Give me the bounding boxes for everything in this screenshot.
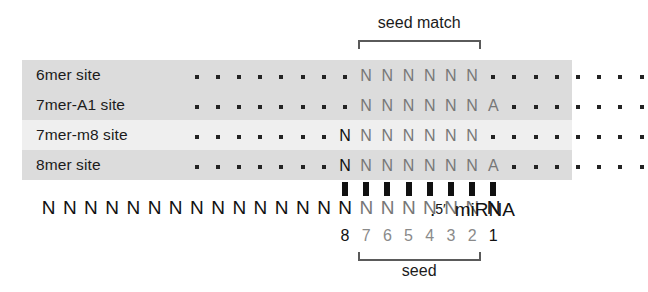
- sequence-dot: [589, 128, 610, 144]
- position-number: 7: [356, 228, 377, 244]
- sequence-dot: [504, 98, 525, 114]
- sequence-dot: [504, 128, 525, 144]
- site-row-sequence: NNNNNNA: [186, 98, 648, 114]
- sequence-dot: [228, 68, 249, 84]
- sequence-dot: [589, 98, 610, 114]
- sequence-dot: [610, 68, 631, 84]
- position-number: 4: [419, 228, 440, 244]
- sequence-dot: [228, 158, 249, 174]
- sequence-dot: [207, 98, 228, 114]
- sequence-base: A: [483, 98, 504, 114]
- sequence-dot: [610, 98, 631, 114]
- mirna-base: N: [123, 198, 144, 217]
- mirna-base: N: [165, 198, 186, 217]
- sequence-dot: [631, 68, 648, 84]
- sequence-dot: [504, 68, 525, 84]
- mirna-label: miRNA: [455, 199, 515, 220]
- sequence-dot: [313, 158, 334, 174]
- mirna-base: N: [377, 198, 398, 217]
- sequence-dot: [589, 158, 610, 174]
- sequence-base: N: [377, 98, 398, 114]
- sequence-dot: [186, 128, 207, 144]
- sequence-dot: [228, 98, 249, 114]
- bracket-bar: [358, 259, 481, 261]
- seed-bracket: [358, 250, 481, 261]
- sequence-dot: [483, 68, 504, 84]
- sequence-dot: [250, 128, 271, 144]
- sequence-dot: [292, 98, 313, 114]
- sequence-dot: [483, 128, 504, 144]
- sequence-dot: [313, 68, 334, 84]
- five-prime-label: 5′: [435, 201, 445, 217]
- sequence-base: N: [356, 98, 377, 114]
- sequence-dot: [250, 98, 271, 114]
- sequence-dot: [567, 158, 588, 174]
- sequence-dot: [186, 158, 207, 174]
- sequence-base: N: [461, 158, 482, 174]
- sequence-dot: [589, 68, 610, 84]
- sequence-base: N: [419, 128, 440, 144]
- sequence-dot: [631, 98, 648, 114]
- sequence-dot: [567, 68, 588, 84]
- mirna-base: N: [208, 198, 229, 217]
- sequence-base: N: [440, 158, 461, 174]
- sequence-base: N: [356, 158, 377, 174]
- sequence-base: N: [398, 68, 419, 84]
- mirna-base: N: [250, 198, 271, 217]
- mirna-base: N: [186, 198, 207, 217]
- sequence-base: N: [377, 68, 398, 84]
- site-row-label: 7mer-A1 site: [36, 96, 125, 114]
- mirna-base: N: [59, 198, 80, 217]
- seed-match-bracket: [358, 40, 481, 51]
- sequence-base: N: [419, 68, 440, 84]
- sequence-base: A: [483, 158, 504, 174]
- position-number: 3: [440, 228, 461, 244]
- sequence-base: N: [356, 68, 377, 84]
- sequence-base: N: [334, 128, 355, 144]
- site-row-sequence: NNNNNNN: [186, 128, 648, 144]
- mirna-terminus: .5′miRNA: [430, 199, 515, 221]
- bracket-tick-left: [358, 40, 360, 49]
- sequence-dot: [271, 158, 292, 174]
- sequence-dot: [525, 128, 546, 144]
- mirna-base: N: [292, 198, 313, 217]
- bracket-tick-left: [358, 252, 360, 261]
- sequence-dot: [207, 158, 228, 174]
- mirna-base: N: [313, 198, 334, 217]
- sequence-base: N: [461, 68, 482, 84]
- site-row-label: 6mer site: [36, 66, 101, 84]
- mirna-base: N: [356, 198, 377, 217]
- sequence-dot: [567, 128, 588, 144]
- sequence-dot: [207, 68, 228, 84]
- mirna-base: N: [144, 198, 165, 217]
- sequence-base: N: [377, 128, 398, 144]
- seed-label: seed: [358, 262, 481, 280]
- sequence-base: N: [356, 128, 377, 144]
- sequence-base: N: [334, 158, 355, 174]
- bracket-bar: [358, 40, 481, 42]
- sequence-base: N: [419, 158, 440, 174]
- mirna-base: N: [271, 198, 292, 217]
- sequence-base: N: [440, 98, 461, 114]
- position-numbers: 87654321: [334, 228, 504, 244]
- sequence-base: N: [440, 68, 461, 84]
- sequence-base: N: [398, 128, 419, 144]
- bracket-tick-right: [479, 40, 481, 49]
- sequence-dot: [334, 68, 355, 84]
- position-number: 5: [398, 228, 419, 244]
- sequence-dot: [186, 68, 207, 84]
- sequence-dot: [334, 98, 355, 114]
- position-number: 2: [462, 228, 483, 244]
- sequence-dot: [546, 98, 567, 114]
- sequence-dot: [631, 158, 648, 174]
- sequence-dot: [313, 98, 334, 114]
- sequence-dot: [207, 128, 228, 144]
- sequence-base: N: [398, 158, 419, 174]
- sequence-dot: [292, 128, 313, 144]
- sequence-dot: [292, 68, 313, 84]
- mirna-base: N: [398, 198, 419, 217]
- sequence-dot: [250, 68, 271, 84]
- mirna-base: N: [38, 198, 59, 217]
- sequence-dot: [546, 158, 567, 174]
